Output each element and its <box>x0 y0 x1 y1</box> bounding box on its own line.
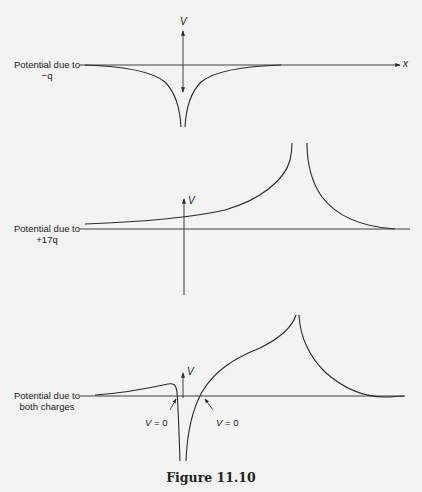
v-axis-label: V <box>188 195 195 206</box>
curve-minus-q-right <box>185 65 281 127</box>
v-equals-zero-left: V = 0 <box>145 417 167 428</box>
curve-both-middle <box>186 315 296 461</box>
v-equals-zero-right: V = 0 <box>216 417 238 428</box>
curve-both-right <box>299 315 404 397</box>
panel-both <box>80 315 405 461</box>
label-line2: +17q <box>12 234 82 245</box>
figure-page: Potential due to −q V x Potential due to… <box>0 0 422 492</box>
panel-label-plus-17q: Potential due to +17q <box>12 223 82 245</box>
x-axis-label: x <box>403 58 408 69</box>
panel-label-both: Potential due to both charges <box>12 390 82 412</box>
v-zero-pointer-left <box>170 399 176 410</box>
figure-caption: Figure 11.10 <box>0 470 422 485</box>
panel-label-minus-q: Potential due to −q <box>12 59 82 81</box>
label-line1: Potential due to <box>12 59 82 70</box>
panel-plus-17q <box>80 143 410 295</box>
curve-plus-17q-right <box>307 143 395 229</box>
label-line1: Potential due to <box>12 390 82 401</box>
panel-minus-q <box>80 31 400 127</box>
annotation-text: = 0 <box>222 417 238 428</box>
label-line2: both charges <box>12 401 82 412</box>
v-axis-label: V <box>180 16 187 27</box>
label-line2: −q <box>12 70 82 81</box>
v-axis-label: V <box>187 366 194 377</box>
v-zero-pointer-right <box>205 399 213 410</box>
curve-plus-17q-left <box>85 143 292 224</box>
curve-minus-q-left <box>85 65 181 127</box>
annotation-text: = 0 <box>151 417 167 428</box>
label-line1: Potential due to <box>12 223 82 234</box>
